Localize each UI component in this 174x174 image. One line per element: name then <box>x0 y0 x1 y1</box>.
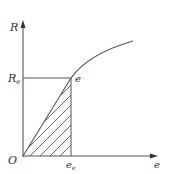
re-label: Re <box>7 72 20 86</box>
x-axis-label: e <box>154 159 160 170</box>
yield-point-label: e <box>75 73 81 84</box>
ee-label: ee <box>66 159 76 171</box>
y-axis-label: R <box>9 21 18 34</box>
origin-label: O <box>8 154 17 167</box>
hatched-area <box>0 76 140 156</box>
elastic-line <box>23 78 71 156</box>
y-axis-arrow-icon <box>21 20 26 28</box>
stress-strain-diagram: R e O Re e ee <box>0 0 174 174</box>
x-axis-arrow-icon <box>150 154 158 159</box>
